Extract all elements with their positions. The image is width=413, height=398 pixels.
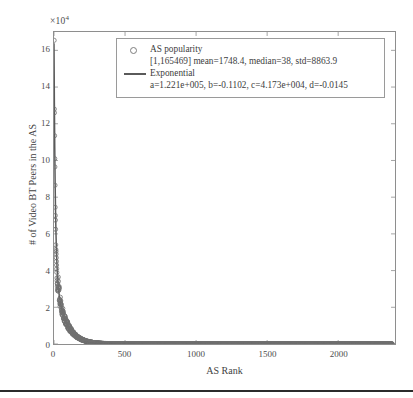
legend-entry-as-popularity: AS popularity bbox=[123, 44, 377, 55]
legend-label-exponential: Exponential bbox=[150, 68, 195, 79]
y-tick-label: 16 bbox=[28, 44, 50, 54]
y-axis-exponent-base: ×10 bbox=[50, 16, 65, 26]
x-tick-label: 1500 bbox=[258, 349, 276, 359]
x-axis-tick-labels: 0500100015002000 bbox=[53, 349, 396, 363]
line-swatch-icon bbox=[123, 68, 147, 79]
x-tick-label: 500 bbox=[118, 349, 132, 359]
x-tick-label: 1000 bbox=[187, 349, 205, 359]
legend-entry-exponential: Exponential bbox=[123, 68, 377, 79]
page-scan-rule bbox=[0, 390, 413, 392]
y-axis-title: # of Video BT Peers in the AS bbox=[27, 75, 38, 295]
x-tick-label: 2000 bbox=[330, 349, 348, 359]
legend-detail-exponential: a=1.221e+005, b=-0.1102, c=4.173e+004, d… bbox=[123, 80, 377, 92]
legend-label-as-popularity: AS popularity bbox=[150, 44, 202, 55]
figure-container: ×104 0246810121416 0500100015002000 AS R… bbox=[0, 0, 413, 398]
y-axis-exponent-power: 4 bbox=[65, 14, 69, 22]
chart-legend: AS popularity [1,165469] mean=1748.4, me… bbox=[116, 38, 385, 98]
x-tick-label: 0 bbox=[51, 349, 56, 359]
y-tick-label: 0 bbox=[28, 340, 50, 350]
circle-marker-icon bbox=[123, 44, 147, 55]
x-axis-title: AS Rank bbox=[53, 365, 396, 376]
y-tick-label: 2 bbox=[28, 303, 50, 313]
legend-detail-as-popularity: [1,165469] mean=1748.4, median=38, std=8… bbox=[123, 56, 377, 68]
y-axis-exponent-multiplier: ×104 bbox=[50, 14, 69, 26]
